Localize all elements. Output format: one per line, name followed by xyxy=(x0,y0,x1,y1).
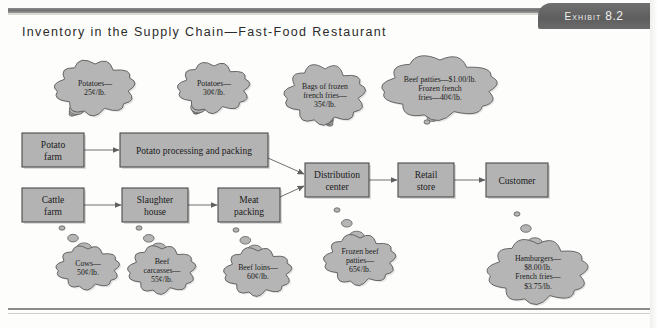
thought-cloud-cloud-beef-loins-60: Beef loins—60¢/lb. xyxy=(223,228,293,298)
flow-node-slaughter-house[interactable]: Slaughterhouse xyxy=(122,188,190,224)
flow-node-distribution-center[interactable]: Distributioncenter xyxy=(305,163,371,199)
thought-bubble xyxy=(136,226,142,230)
flow-node-label: Retail xyxy=(415,170,438,180)
cloud-text-line: Beef loins— xyxy=(238,263,278,272)
thought-bubble xyxy=(521,225,532,233)
flow-node-customer[interactable]: Customer xyxy=(486,163,550,199)
flow-node-label: packing xyxy=(234,207,264,217)
flow-node-potato-processing[interactable]: Potato processing and packing xyxy=(120,133,270,169)
cloud-text-line: Beef xyxy=(155,257,170,266)
cloud-text-line: French fries— xyxy=(515,272,560,281)
cloud-text-line: patties— xyxy=(346,256,374,265)
thought-cloud-cloud-potatoes-30: Potatoes—30¢/lb. xyxy=(177,62,251,115)
thought-cloud-cloud-beef-patties-frozen-fries: Beef patties—$1.00/lb.Frozen frenchfries… xyxy=(382,56,499,124)
flow-node-label: Potato xyxy=(41,140,66,150)
arrow-processing-to-distribution xyxy=(268,158,304,174)
thought-bubble xyxy=(334,208,340,212)
thought-bubble xyxy=(68,234,79,242)
flow-node-label: farm xyxy=(44,152,63,162)
flow-node-label: Distribution xyxy=(314,170,360,180)
thought-bubble xyxy=(240,237,251,245)
cloud-text-line: 65¢/lb. xyxy=(349,265,371,274)
cloud-text-line: Hamburgers— xyxy=(515,254,561,263)
cloud-text-line: 50¢/lb. xyxy=(77,268,99,277)
thought-bubble xyxy=(59,226,65,230)
flow-node-label: center xyxy=(325,182,349,192)
arrow-meat-to-distribution xyxy=(280,186,304,197)
cloud-text-line: Frozen beef xyxy=(341,247,378,256)
cloud-text-line: 30¢/lb. xyxy=(203,88,225,97)
cloud-text-line: french fries— xyxy=(303,91,347,100)
cloud-text-line: Potatoes— xyxy=(78,79,112,88)
thought-cloud-cloud-beef-carcasses-55: Beefcarcasses—55¢/lb. xyxy=(127,226,197,296)
node-layer: PotatofarmPotato processing and packingC… xyxy=(22,133,550,224)
cloud-text-line: carcasses— xyxy=(144,266,181,275)
thought-bubble xyxy=(144,235,155,243)
supply-chain-diagram: Potatoes—25¢/lb.Potatoes—30¢/lb.Bags of … xyxy=(0,0,658,328)
cloud-text-line: Bags of frozen xyxy=(302,82,348,91)
bottom-divider-rule-secondary xyxy=(8,313,650,314)
exhibit-page: Exhibit 8.2 Inventory in the Supply Chai… xyxy=(0,0,658,328)
thought-bubble xyxy=(342,220,353,228)
flow-node-label: house xyxy=(144,207,166,217)
cloud-text-line: Potatoes— xyxy=(197,79,231,88)
thought-cloud-cloud-cows-50: Cows—50¢/lb. xyxy=(56,226,121,292)
thought-cloud-cloud-hamburgers-french-fries: Hamburgers—$8.00/lb.French fries—$3.75/l… xyxy=(487,212,589,306)
thought-cloud-cloud-frozen-fries-35: Bags of frozenfrench fries—35¢/lb. xyxy=(284,65,367,127)
cloud-text-line: Cows— xyxy=(75,259,101,268)
bottom-divider-rule xyxy=(8,308,650,310)
flow-node-cattle-farm[interactable]: Cattlefarm xyxy=(22,188,86,224)
page-right-edge xyxy=(650,0,658,328)
flow-node-label: store xyxy=(417,182,435,192)
flow-node-label: Customer xyxy=(499,176,537,186)
cloud-text-line: 35¢/lb. xyxy=(314,100,336,109)
flow-node-label: Cattle xyxy=(42,195,65,205)
flow-node-retail-store[interactable]: Retailstore xyxy=(398,163,456,199)
thought-bubble xyxy=(514,212,520,216)
flow-node-potato-farm[interactable]: Potatofarm xyxy=(22,133,86,169)
flow-node-label: farm xyxy=(44,207,63,217)
thought-cloud-cloud-potatoes-25: Potatoes—25¢/lb. xyxy=(54,60,136,117)
cloud-text-line: Frozen french xyxy=(418,84,462,93)
thought-cloud-cloud-frozen-beef-patties-65: Frozen beefpatties—65¢/lb. xyxy=(323,208,397,287)
flow-node-label: Meat xyxy=(239,195,259,205)
cloud-text-line: fries—40¢/lb. xyxy=(418,93,462,102)
flow-node-label: Slaughter xyxy=(137,195,174,205)
flow-node-label: Potato processing and packing xyxy=(136,146,252,156)
cloud-text-line: 55¢/lb. xyxy=(151,275,173,284)
flow-node-meat-packing[interactable]: Meatpacking xyxy=(218,188,282,224)
cloud-text-line: 25¢/lb. xyxy=(84,88,106,97)
thought-bubble xyxy=(233,228,239,232)
cloud-text-line: $8.00/lb. xyxy=(524,263,552,272)
cloud-text-line: $3.75/lb. xyxy=(524,282,552,291)
cloud-text-line: 60¢/lb. xyxy=(247,272,269,281)
cloud-text-line: Beef patties—$1.00/lb. xyxy=(404,75,477,84)
